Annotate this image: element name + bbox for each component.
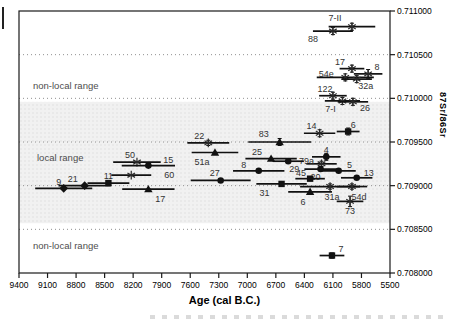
point-label-15: 15 (163, 155, 173, 165)
x-tick-label: 9400 (10, 280, 29, 290)
point-label-7: 7 (338, 244, 343, 254)
point-label-22: 22 (194, 131, 204, 141)
point-label-73: 73 (345, 206, 355, 216)
data-point-8-21 (255, 168, 262, 175)
point-label-7-II: 7-II (328, 13, 341, 23)
point-label-11: 11 (104, 171, 113, 181)
point-label-25: 25 (252, 147, 262, 157)
data-point-45-25 (307, 175, 313, 181)
x-tick-label: 6700 (266, 280, 285, 290)
data-point-7-36 (329, 252, 335, 258)
plot-area: 7-II8817854e32a1227-I26146228351a25479a2… (0, 0, 449, 319)
x-tick-label: 7600 (181, 280, 200, 290)
point-label-51a: 51a (194, 157, 209, 167)
x-tick-label: 5800 (352, 280, 371, 290)
data-point-31-30 (278, 181, 284, 187)
point-label-17: 17 (155, 194, 165, 204)
y-tick-label: 0.710500 (397, 50, 433, 60)
point-label-122: 122 (317, 84, 332, 94)
point-label-50: 50 (125, 150, 135, 160)
x-tick-label: 7900 (152, 280, 171, 290)
y-tick-label: 0.709500 (397, 137, 433, 147)
point-label-5: 5 (347, 160, 352, 170)
point-label-60: 60 (164, 170, 174, 180)
point-label-8: 8 (241, 160, 246, 170)
x-tick-label: 6400 (295, 280, 314, 290)
point-label-88: 88 (308, 34, 318, 44)
point-label-32a: 32a (358, 81, 373, 91)
region-label: non-local range (33, 80, 99, 91)
point-label-13: 13 (364, 168, 374, 178)
point-label-17: 17 (335, 57, 345, 67)
point-label-31: 31 (260, 188, 270, 198)
point-label-27: 27 (210, 168, 220, 178)
data-point-15-19 (145, 162, 152, 169)
point-label-7-I: 7-I (325, 104, 336, 114)
point-label-54d: 54d (351, 192, 366, 202)
x-tick-label: 8800 (67, 280, 86, 290)
point-label-26: 26 (360, 103, 370, 113)
region-label: non-local range (33, 240, 99, 251)
point-label-54e: 54e (319, 69, 334, 79)
x-tick-label: 8500 (95, 280, 114, 290)
point-label-8: 8 (375, 62, 380, 72)
y-tick-label: 0.709000 (397, 181, 433, 191)
y-tick-label: 0.708000 (397, 268, 433, 278)
x-tick-label: 7300 (209, 280, 228, 290)
point-label-21: 21 (68, 174, 78, 184)
figure-edge-artifact (2, 7, 4, 29)
x-tick-label: 9100 (38, 280, 57, 290)
x-axis-title: Age (cal B.C.) (0, 294, 449, 306)
region-label: local range (37, 152, 83, 163)
point-label-6: 6 (351, 120, 356, 130)
point-label-31a: 31a (325, 192, 340, 202)
point-label-4: 4 (324, 145, 329, 155)
point-label-45: 45 (296, 168, 306, 178)
y-tick-label: 0.710000 (397, 93, 433, 103)
x-tick-label: 5500 (381, 280, 400, 290)
cropped-caption-artifact (150, 315, 447, 319)
y-axis-title: 87Sr/86Sr (438, 92, 448, 138)
point-label-83: 83 (259, 129, 269, 139)
data-point-13-26 (353, 175, 360, 182)
y-tick-label: 0.711000 (397, 6, 432, 16)
point-label-6: 6 (301, 197, 306, 207)
x-tick-label: 6100 (323, 280, 342, 290)
y-tick-label: 0.708500 (397, 224, 433, 234)
chart-figure: 7-II8817854e32a1227-I26146228351a25479a2… (0, 0, 449, 319)
point-label-14: 14 (307, 121, 317, 131)
x-tick-label: 8200 (124, 280, 143, 290)
x-tick-label: 7000 (238, 280, 257, 290)
